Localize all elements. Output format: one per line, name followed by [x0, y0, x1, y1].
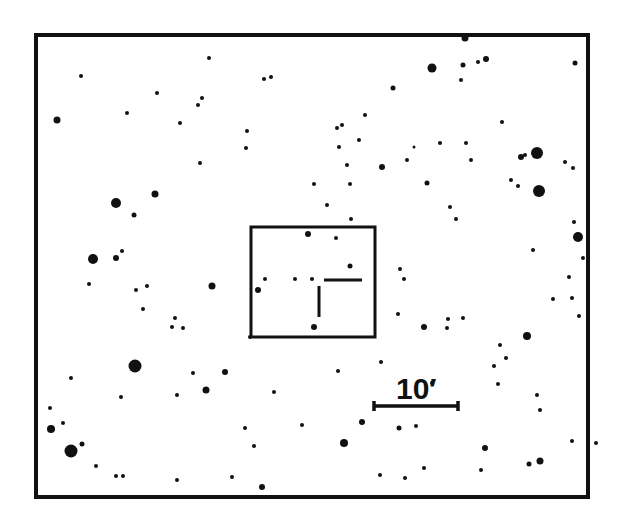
star: [134, 288, 138, 292]
star: [152, 191, 159, 198]
star: [65, 445, 78, 458]
star: [379, 164, 385, 170]
star: [516, 184, 520, 188]
star: [80, 442, 85, 447]
star: [244, 146, 248, 150]
star: [581, 256, 585, 260]
star: [504, 356, 508, 360]
star: [252, 444, 256, 448]
star: [531, 248, 535, 252]
star: [476, 60, 480, 64]
star: [403, 476, 407, 480]
star: [483, 56, 489, 62]
star: [255, 287, 261, 293]
star-field: [47, 35, 598, 491]
star: [145, 284, 149, 288]
star: [132, 213, 137, 218]
star: [88, 254, 98, 264]
star: [230, 475, 234, 479]
star: [402, 277, 406, 281]
star: [594, 441, 598, 445]
star: [527, 462, 532, 467]
star: [531, 147, 543, 159]
star: [170, 325, 174, 329]
star: [348, 264, 353, 269]
star: [422, 466, 426, 470]
star: [181, 326, 185, 330]
star: [300, 423, 304, 427]
star: [119, 395, 123, 399]
star: [421, 324, 427, 330]
star: [571, 166, 575, 170]
star: [500, 120, 504, 124]
star: [54, 117, 61, 124]
star: [496, 382, 500, 386]
star: [200, 96, 204, 100]
star: [509, 178, 513, 182]
star: [335, 126, 339, 130]
star: [448, 205, 452, 209]
star: [69, 376, 73, 380]
star: [336, 369, 340, 373]
star: [573, 232, 583, 242]
star: [243, 426, 247, 430]
star: [397, 426, 402, 431]
star: [113, 255, 119, 261]
star: [259, 484, 265, 490]
star: [498, 343, 502, 347]
star: [464, 141, 468, 145]
star: [141, 307, 145, 311]
star: [312, 182, 316, 186]
star: [428, 64, 437, 73]
star: [178, 121, 182, 125]
star: [111, 198, 121, 208]
star: [379, 360, 383, 364]
star: [570, 439, 574, 443]
star: [269, 75, 273, 79]
star: [48, 406, 52, 410]
star: [272, 390, 276, 394]
star: [175, 393, 179, 397]
star: [535, 393, 539, 397]
star: [155, 91, 159, 95]
star: [523, 153, 527, 157]
star: [293, 277, 297, 281]
star: [459, 78, 463, 82]
star: [245, 129, 249, 133]
star: [551, 297, 555, 301]
star: [446, 317, 450, 321]
star: [378, 473, 382, 477]
star: [572, 220, 576, 224]
star: [538, 408, 542, 412]
star: [340, 123, 344, 127]
star: [175, 478, 179, 482]
star: [363, 113, 367, 117]
star: [345, 163, 349, 167]
star: [207, 56, 211, 60]
star: [173, 316, 177, 320]
star: [87, 282, 91, 286]
star: [482, 445, 488, 451]
star: [396, 312, 400, 316]
star: [222, 369, 228, 375]
target-field-box: [251, 227, 375, 337]
star: [203, 387, 210, 394]
star: [398, 267, 402, 271]
star: [310, 277, 314, 281]
star: [445, 326, 449, 330]
star: [567, 275, 571, 279]
star: [120, 249, 124, 253]
star: [349, 217, 353, 221]
star: [469, 158, 473, 162]
star: [262, 77, 266, 81]
star: [492, 364, 496, 368]
star: [263, 277, 267, 281]
star: [359, 419, 365, 425]
star: [340, 439, 348, 447]
star: [357, 138, 361, 142]
star: [198, 161, 202, 165]
star: [454, 217, 458, 221]
star: [61, 421, 65, 425]
star: [114, 474, 118, 478]
star: [577, 314, 581, 318]
